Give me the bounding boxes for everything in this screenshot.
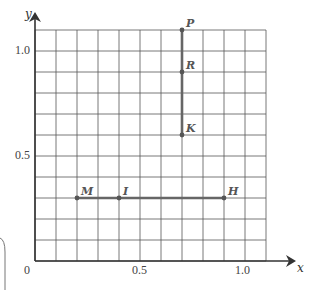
point-P — [180, 28, 185, 33]
x-axis-label: x — [297, 261, 304, 275]
point-I — [117, 196, 122, 201]
point-label-I: I — [122, 185, 129, 198]
points: PRKMIH — [75, 17, 239, 200]
point-label-M: M — [80, 185, 94, 198]
y-tick-label: 1.0 — [15, 43, 30, 57]
point-R — [180, 70, 185, 75]
partial-bracket — [0, 238, 5, 290]
x-tick-label: 1.0 — [235, 263, 250, 277]
coordinate-grid-diagram: x y 0 0.5 1.0 0.5 1.0 PRKMIH — [0, 0, 320, 290]
axes: x y 0 0.5 1.0 0.5 1.0 — [15, 7, 304, 277]
point-H — [222, 196, 227, 201]
point-label-R: R — [185, 59, 195, 72]
x-tick-label: 0.5 — [132, 263, 147, 277]
origin-label: 0 — [24, 263, 30, 277]
y-tick-label: 0.5 — [15, 148, 30, 162]
point-K — [180, 133, 185, 138]
point-label-P: P — [185, 17, 195, 30]
point-M — [75, 196, 80, 201]
grid-lines — [35, 30, 266, 261]
point-label-K: K — [185, 122, 196, 135]
y-axis-label: y — [24, 7, 32, 21]
point-label-H: H — [227, 185, 239, 198]
